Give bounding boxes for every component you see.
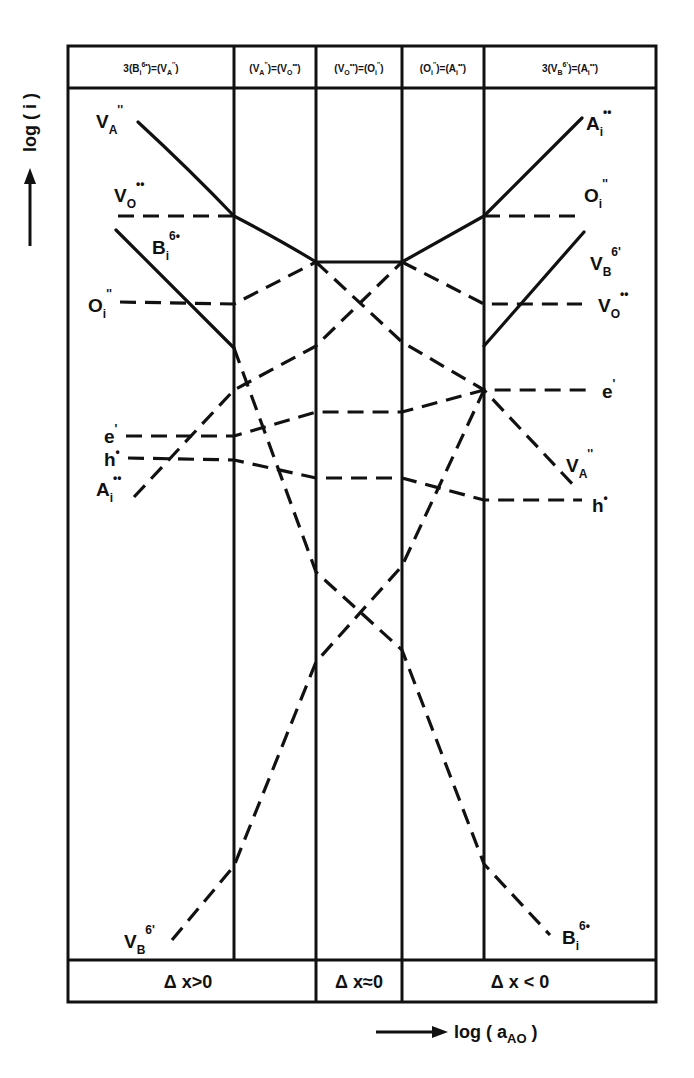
header-cell-3: (VO••)=(Oi''): [334, 61, 383, 76]
label-bi-left: Bi6•: [152, 229, 180, 263]
header-cell-4: (Oi'')=(Ai••): [420, 61, 466, 76]
curve-ai: [134, 118, 582, 497]
defect-diagram: 3(Bi6•)=(VA'') (VA'')=(VO••) (VO••)=(Oi'…: [0, 0, 694, 1078]
label-ai-right: Ai••: [586, 105, 611, 139]
footer-dx-positive: Δ x>0: [164, 972, 212, 992]
svg-text:(Oi'')=(Ai••): (Oi'')=(Ai••): [420, 61, 466, 76]
y-axis-label: log ( i ): [20, 93, 40, 246]
label-vb-left: VB6': [124, 923, 155, 957]
label-vo-left: VO••: [114, 177, 144, 211]
label-va-left: VA'': [96, 103, 123, 137]
label-h-left: h•: [104, 445, 120, 470]
label-e-right: e': [602, 377, 616, 402]
svg-text:(VO••)=(Oi''): (VO••)=(Oi''): [334, 61, 383, 76]
y-axis-arrow-icon: [24, 168, 36, 184]
svg-text:log ( i ): log ( i ): [20, 93, 40, 152]
footer-dx-zero: Δ x≈0: [335, 972, 383, 992]
label-h-right: h•: [592, 491, 608, 516]
label-va-right: VA'': [566, 447, 593, 481]
svg-text:log ( aAO ): log ( aAO ): [454, 1022, 538, 1046]
diagram-frame: [68, 46, 656, 1002]
x-axis-arrow-icon: [432, 1026, 448, 1038]
curve-vo: [118, 216, 582, 304]
label-oi-left: Oi'': [88, 287, 112, 321]
svg-text:3(VB6')=(Ai••): 3(VB6')=(Ai••): [542, 61, 598, 76]
curve-e: [126, 390, 586, 436]
label-vo-right: VO••: [598, 287, 628, 321]
x-axis-label: log ( aAO ): [376, 1022, 538, 1046]
curve-h: [128, 458, 582, 500]
label-e-left: e': [104, 422, 118, 447]
label-oi-right: Oi'': [584, 177, 608, 211]
header-cell-1: 3(Bi6•)=(VA''): [123, 61, 178, 76]
footer-dx-negative: Δ x < 0: [491, 972, 549, 992]
label-bi-right: Bi6•: [562, 919, 590, 953]
label-ai-left: Ai••: [96, 471, 121, 505]
label-vb-right: VB6': [590, 245, 621, 279]
curve-oi: [120, 216, 584, 304]
header-cell-2: (VA'')=(VO••): [249, 61, 300, 76]
header-cell-5: 3(VB6')=(Ai••): [542, 61, 598, 76]
svg-text:3(Bi6•)=(VA''): 3(Bi6•)=(VA''): [123, 61, 178, 76]
svg-text:(VA'')=(VO••): (VA'')=(VO••): [249, 61, 300, 76]
